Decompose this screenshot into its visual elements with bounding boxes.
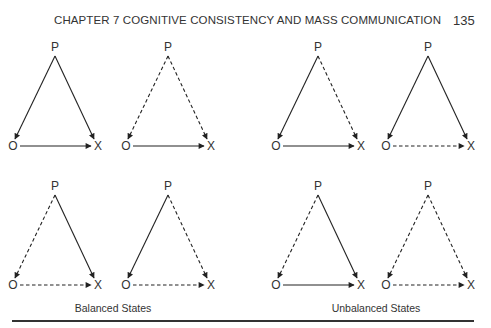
node-x-label: X xyxy=(207,139,215,153)
relation-p-x-dashed xyxy=(428,195,467,278)
relation-p-o-dashed xyxy=(278,195,318,278)
node-p-label: P xyxy=(424,40,432,54)
bottom-rule xyxy=(12,320,474,322)
pox-triangle-balanced: POX xyxy=(8,40,102,153)
node-p-label: P xyxy=(51,179,59,193)
node-o-label: O xyxy=(121,139,130,153)
pox-triangle-unbalanced: POX xyxy=(271,179,365,292)
pox-triangle-balanced: POX xyxy=(121,40,215,153)
balanced-states-caption: Balanced States xyxy=(75,302,151,314)
node-o-label: O xyxy=(8,139,17,153)
node-x-label: X xyxy=(94,139,102,153)
node-o-label: O xyxy=(381,278,390,292)
node-o-label: O xyxy=(271,139,280,153)
pox-triangle-balanced: POX xyxy=(121,179,215,292)
node-x-label: X xyxy=(467,278,475,292)
pox-triangle-unbalanced: POX xyxy=(381,40,475,153)
pox-triangle-unbalanced: POX xyxy=(271,40,365,153)
pox-balance-diagrams: POXPOXPOXPOXPOXPOXPOXPOX xyxy=(0,0,491,328)
node-x-label: X xyxy=(207,278,215,292)
node-x-label: X xyxy=(94,278,102,292)
node-o-label: O xyxy=(271,278,280,292)
node-p-label: P xyxy=(424,179,432,193)
relation-p-o-solid xyxy=(15,56,55,139)
relation-p-o-dashed xyxy=(128,56,168,139)
node-p-label: P xyxy=(314,40,322,54)
relation-p-o-solid xyxy=(278,56,318,139)
node-x-label: X xyxy=(357,278,365,292)
node-x-label: X xyxy=(357,139,365,153)
node-p-label: P xyxy=(314,179,322,193)
relation-p-o-solid xyxy=(388,56,428,139)
relation-p-o-dashed xyxy=(15,195,55,278)
relation-p-x-dashed xyxy=(168,56,207,139)
relation-p-x-solid xyxy=(55,56,94,139)
unbalanced-states-caption: Unbalanced States xyxy=(332,302,421,314)
relation-p-x-dashed xyxy=(168,195,207,278)
relation-p-o-solid xyxy=(128,195,168,278)
node-p-label: P xyxy=(164,179,172,193)
relation-p-x-dashed xyxy=(318,56,357,139)
node-o-label: O xyxy=(121,278,130,292)
pox-triangle-unbalanced: POX xyxy=(381,179,475,292)
relation-p-x-solid xyxy=(428,56,467,139)
relation-p-x-solid xyxy=(318,195,357,278)
relation-p-x-solid xyxy=(55,195,94,278)
node-o-label: O xyxy=(381,139,390,153)
pox-triangle-balanced: POX xyxy=(8,179,102,292)
node-x-label: X xyxy=(467,139,475,153)
relation-p-o-dashed xyxy=(388,195,428,278)
node-p-label: P xyxy=(164,40,172,54)
node-p-label: P xyxy=(51,40,59,54)
node-o-label: O xyxy=(8,278,17,292)
